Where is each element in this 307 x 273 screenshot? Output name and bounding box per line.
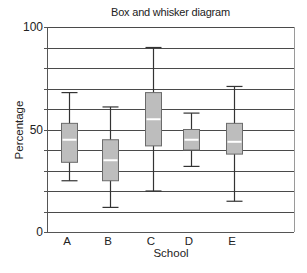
x-category-label: C xyxy=(147,235,155,247)
box-B xyxy=(103,107,119,207)
y-tick-label: 100 xyxy=(23,20,43,34)
box-E xyxy=(227,86,243,201)
y-tick-label: 50 xyxy=(30,123,44,137)
boxes xyxy=(62,48,243,208)
x-category-label: A xyxy=(63,235,71,247)
iqr-box xyxy=(227,123,243,154)
plot-area: 050100 ABCDE xyxy=(0,0,307,273)
gridlines xyxy=(47,28,294,213)
x-category-label: E xyxy=(228,235,236,247)
box-D xyxy=(184,113,200,166)
box-A xyxy=(62,93,78,181)
y-tick-labels: 050100 xyxy=(23,20,43,239)
box-whisker-chart: Box and whisker diagram Percentage Schoo… xyxy=(0,0,307,273)
box-C xyxy=(146,48,162,192)
x-category-label: D xyxy=(185,235,193,247)
axes xyxy=(44,27,295,233)
iqr-box xyxy=(62,123,78,162)
x-category-labels: ABCDE xyxy=(63,235,236,247)
x-category-label: B xyxy=(104,235,112,247)
y-tick-label: 0 xyxy=(36,225,43,239)
